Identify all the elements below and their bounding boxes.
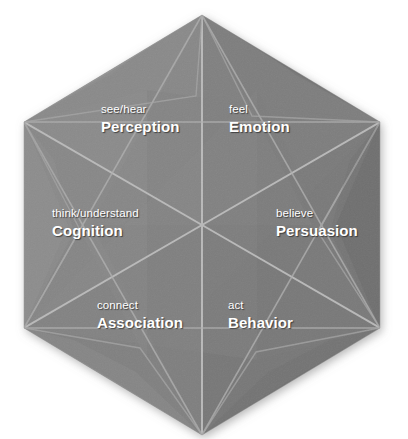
segment-noun-emotion: Emotion bbox=[229, 119, 290, 134]
segment-verb-persuasion: believe bbox=[276, 208, 358, 220]
segment-label-behavior: act Behavior bbox=[228, 300, 293, 330]
segment-noun-association: Association bbox=[97, 315, 183, 330]
segment-noun-perception: Perception bbox=[101, 119, 180, 134]
segment-verb-emotion: feel bbox=[229, 104, 290, 116]
segment-noun-cognition: Cognition bbox=[52, 223, 139, 238]
diagram-canvas: see/hear Perception feel Emotion think/u… bbox=[0, 0, 408, 439]
segment-verb-perception: see/hear bbox=[101, 104, 180, 116]
segment-label-perception: see/hear Perception bbox=[101, 104, 180, 134]
segment-label-emotion: feel Emotion bbox=[229, 104, 290, 134]
segment-label-persuasion: believe Persuasion bbox=[276, 208, 358, 238]
segment-noun-persuasion: Persuasion bbox=[276, 223, 358, 238]
segment-noun-behavior: Behavior bbox=[228, 315, 293, 330]
segment-label-association: connect Association bbox=[97, 300, 183, 330]
segment-label-cognition: think/understand Cognition bbox=[52, 208, 139, 238]
segment-verb-cognition: think/understand bbox=[52, 208, 139, 220]
segment-verb-association: connect bbox=[97, 300, 183, 312]
segment-verb-behavior: act bbox=[228, 300, 293, 312]
